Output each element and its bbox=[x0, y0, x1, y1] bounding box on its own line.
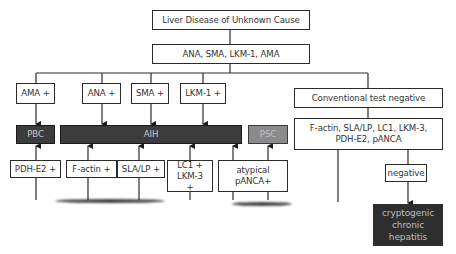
f-actin-positive-box: F-actin + bbox=[66, 160, 117, 178]
lkm1-positive-box: LKM-1 + bbox=[180, 83, 226, 104]
smear-artifact bbox=[55, 199, 165, 203]
conventional-negative-box: Conventional test negative bbox=[294, 88, 443, 108]
pbc-box: PBC bbox=[16, 125, 55, 144]
lc1-lkm3-positive-box: LC1 + LKM-3 + bbox=[167, 160, 213, 192]
root-box: Liver Disease of Unknown Cause bbox=[152, 10, 310, 30]
ama-positive-box: AMA + bbox=[16, 83, 55, 104]
sma-positive-box: SMA + bbox=[131, 83, 169, 104]
atypical-panca-positive-box: atypical pANCA+ bbox=[218, 160, 288, 192]
negative-box: negative bbox=[385, 164, 427, 182]
sla-lp-positive-box: SLA/LP + bbox=[117, 160, 165, 178]
pdh-e2-positive-box: PDH-E2 + bbox=[10, 160, 61, 178]
screen-tests-box: ANA, SMA, LKM-1, AMA bbox=[152, 44, 310, 64]
psc-box: PSC bbox=[248, 125, 288, 144]
smear-artifact bbox=[232, 202, 292, 206]
cryptogenic-hepatitis-box: cryptogenic chronic hepatitis bbox=[373, 204, 443, 246]
secondary-tests-box: F-actin, SLA/LP, LC1, LKM-3, PDH-E2, pAN… bbox=[294, 118, 443, 150]
aih-box: AIH bbox=[60, 125, 242, 144]
ana-positive-box: ANA + bbox=[82, 83, 121, 104]
